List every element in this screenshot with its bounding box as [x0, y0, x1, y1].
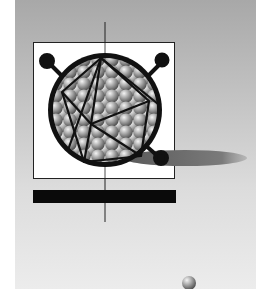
capsid-artwork [0, 0, 270, 289]
small-sphere [182, 276, 196, 289]
black-bar [33, 190, 176, 203]
